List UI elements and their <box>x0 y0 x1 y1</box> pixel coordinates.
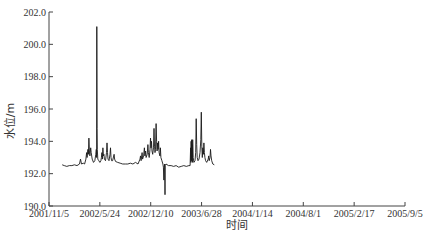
y-axis-title: 水位/m <box>3 103 17 139</box>
y-tick-label: 200.0 <box>24 39 47 50</box>
y-tick-label: 194.0 <box>24 136 47 147</box>
water-level-series <box>62 27 214 195</box>
x-tick-label: 2004/1/14 <box>232 208 273 219</box>
y-tick-label: 196.0 <box>24 104 47 115</box>
x-tick-label: 2005/2/17 <box>334 208 375 219</box>
x-ticks: 2001/11/52002/5/242002/12/102003/6/28200… <box>29 202 423 219</box>
y-tick-label: 198.0 <box>24 71 47 82</box>
x-tick-label: 2001/11/5 <box>29 208 69 219</box>
axes <box>49 12 405 206</box>
y-tick-label: 192.0 <box>24 168 47 179</box>
x-tick-label: 2004/8/1 <box>286 208 322 219</box>
x-tick-label: 2005/9/5 <box>387 208 423 219</box>
y-tick-label: 202.0 <box>24 7 47 18</box>
x-axis-title: 时间 <box>226 219 248 232</box>
x-tick-label: 2002/12/10 <box>128 208 174 219</box>
water-level-chart: 190.0192.0194.0196.0198.0200.0202.0 2001… <box>0 0 428 236</box>
x-tick-label: 2003/6/28 <box>181 208 222 219</box>
x-tick-label: 2002/5/24 <box>80 208 121 219</box>
